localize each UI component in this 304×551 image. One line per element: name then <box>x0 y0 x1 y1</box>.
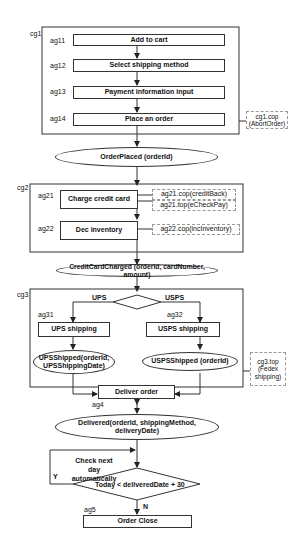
ag22-id: ag22 <box>38 225 54 232</box>
ag21-alternative: ag21.top(eCheckPay) <box>152 200 236 211</box>
ag22-compensation: ag22.cop(incInventory) <box>152 224 240 235</box>
order-placed-event: OrderPlaced (orderId) <box>55 147 218 167</box>
ag11-id: ag11 <box>50 37 65 44</box>
cg3-label: cg3 <box>17 291 28 298</box>
credit-card-charged-event: CreditCardCharged (orderId, cardNumber, … <box>56 264 218 277</box>
usps-branch-label: USPS <box>165 294 184 301</box>
payment-input-step: Payment information input <box>73 86 225 99</box>
order-close-step: Order Close <box>83 515 192 528</box>
ups-shipped-event: UPSShipped(orderId, UPSShippingDate) <box>33 350 115 374</box>
dec-inventory-step: Dec inventory <box>60 221 138 240</box>
ag32-id: ag32 <box>167 311 183 318</box>
yes-label: Y <box>53 473 58 480</box>
ups-shipping-step: UPS shipping <box>38 322 110 337</box>
cg3-alternative: cg3.top (Fedex shipping) <box>250 352 286 386</box>
ag14-id: ag14 <box>50 115 66 122</box>
charge-credit-card-step: Charge credit card <box>60 190 138 209</box>
usps-shipping-step: USPS shipping <box>146 322 220 337</box>
cg1-compensation: cg1.cop (AbortOrder) <box>246 111 288 129</box>
ag31-id: ag31 <box>38 311 54 318</box>
ag5-id: ag5 <box>84 506 96 513</box>
usps-shipped-event: USPSShipped (orderId) <box>142 352 238 371</box>
add-to-cart-step: Add to cart <box>73 34 225 46</box>
place-order-step: Place an order <box>73 113 225 126</box>
ag4-id: ag4 <box>92 401 104 408</box>
ag21-id: ag21 <box>38 192 54 199</box>
ups-branch-label: UPS <box>92 294 106 301</box>
cg1-label: cg1 <box>30 30 41 37</box>
select-shipping-step: Select shipping method <box>73 59 225 72</box>
ag21-compensation: ag21.cop(creditBack) <box>152 189 236 200</box>
date-condition: Today < deliveredDate + 30 <box>95 481 185 488</box>
ag12-id: ag12 <box>50 62 66 69</box>
loop-note: Check next day automatically <box>69 456 119 483</box>
no-label: N <box>143 503 148 510</box>
shipping-decision <box>113 295 161 309</box>
delivered-event: Delivered(orderId, shippingMethod, deliv… <box>55 414 219 440</box>
deliver-order-step: Deliver order <box>98 385 175 399</box>
ag13-id: ag13 <box>50 88 66 95</box>
cg2-label: cg2 <box>17 184 28 191</box>
